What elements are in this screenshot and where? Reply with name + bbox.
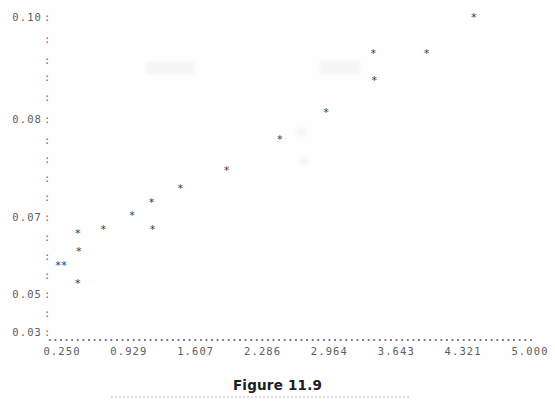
y-axis-tick-mark: :: [44, 231, 50, 243]
y-axis-tick-label: 0.07: [0, 211, 42, 223]
y-axis-tick-label: 0.03: [0, 326, 42, 338]
x-axis-tick-label: 0.250: [43, 345, 80, 357]
data-point-marker: *: [149, 223, 156, 234]
data-point-marker: *: [74, 277, 81, 288]
data-point-marker: *: [100, 223, 107, 234]
y-axis-tick-mark: :: [44, 307, 50, 319]
y-axis-tick-mark: :: [44, 211, 50, 223]
data-point-marker: *: [61, 259, 68, 270]
x-axis-tick-label: 4.321: [445, 345, 482, 357]
data-point-marker: *: [177, 183, 184, 194]
x-axis-tick-label: 2.286: [244, 345, 281, 357]
y-axis-tick-mark: :: [44, 71, 50, 83]
x-axis-tick-label: 3.643: [378, 345, 415, 357]
data-point-marker: *: [370, 48, 377, 59]
y-axis-tick-label: 0.10: [0, 11, 42, 23]
y-axis-tick-mark: :: [44, 172, 50, 184]
data-point-marker: *: [423, 48, 430, 59]
data-point-marker: *: [323, 106, 330, 117]
x-axis-tick-label: 0.929: [110, 345, 147, 357]
y-axis-tick-mark: :: [44, 134, 50, 146]
scatter-plot: :0.10:::::0.08:::::0.07::::0.05::0.03 0.…: [0, 0, 555, 402]
y-axis-tick-mark: :: [44, 91, 50, 103]
y-axis-tick-mark: :: [44, 269, 50, 281]
y-axis-tick-mark: :: [44, 33, 50, 45]
x-axis-tick-label: 5.000: [511, 345, 548, 357]
y-axis-tick-mark: :: [44, 288, 50, 300]
x-axis-line: [47, 339, 534, 341]
y-axis-tick-label: 0.08: [0, 113, 42, 125]
figure-container: :0.10:::::0.08:::::0.07::::0.05::0.03 0.…: [0, 0, 555, 402]
y-axis-tick-mark: :: [44, 250, 50, 262]
y-axis-tick-mark: :: [44, 191, 50, 203]
y-axis-tick-label: 0.05: [0, 288, 42, 300]
data-point-marker: *: [276, 133, 283, 144]
data-point-marker: *: [74, 228, 81, 239]
y-axis-tick-mark: :: [44, 326, 50, 338]
y-axis-tick-mark: :: [44, 153, 50, 165]
data-point-marker: *: [471, 12, 478, 23]
data-point-marker: *: [223, 165, 230, 176]
x-axis-tick-label: 2.964: [311, 345, 348, 357]
data-point-marker: *: [148, 196, 155, 207]
data-point-marker: *: [129, 210, 136, 221]
data-point-marker: *: [371, 75, 378, 86]
figure-caption: Figure 11.9: [0, 377, 555, 393]
data-point-marker: *: [75, 246, 82, 257]
y-axis-tick-mark: :: [44, 113, 50, 125]
x-axis-tick-label: 1.607: [177, 345, 214, 357]
y-axis-tick-mark: :: [44, 11, 50, 23]
caption-underline-rule: [110, 396, 410, 398]
y-axis-tick-mark: :: [44, 54, 50, 66]
